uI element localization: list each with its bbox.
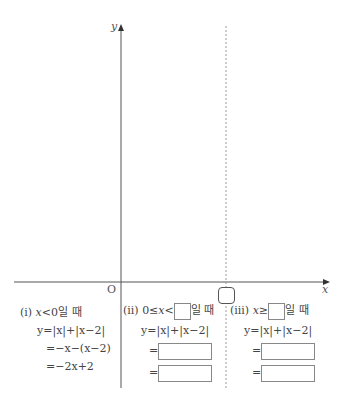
case-ii-answer-blank-2[interactable] bbox=[158, 365, 212, 382]
y-axis-label: y bbox=[111, 20, 117, 33]
case-ii-op: < bbox=[165, 304, 174, 317]
case-iii-line-2: = bbox=[230, 340, 315, 362]
origin-label: O bbox=[107, 283, 116, 296]
case-iii-eq-1: = bbox=[252, 344, 261, 357]
case-i: (i) x<0일 때 y=|x|+|x−2| =−x−(x−2) =−2x+2 bbox=[20, 304, 111, 376]
case-i-line-2: =−x−(x−2) bbox=[20, 340, 111, 358]
case-ii-condition-blank[interactable] bbox=[174, 303, 191, 320]
case-i-line-3: =−2x+2 bbox=[20, 358, 111, 376]
case-iii-answer-blank-1[interactable] bbox=[261, 343, 315, 360]
case-iii-suffix: 일 때 bbox=[285, 304, 309, 317]
case-iii-header: (iii) x≥일 때 bbox=[230, 300, 315, 322]
case-iii-number: (iii) bbox=[230, 304, 253, 317]
case-ii-left: 0≤ bbox=[142, 304, 158, 317]
case-ii-line-1: y=|x|+|x−2| bbox=[123, 322, 214, 340]
x-axis-label: x bbox=[322, 283, 328, 296]
case-i-header: (i) x<0일 때 bbox=[20, 304, 111, 322]
case-iii-condition-blank[interactable] bbox=[268, 303, 285, 320]
case-ii-eq-1: = bbox=[149, 344, 158, 357]
case-ii-header: (ii) 0≤x<일 때 bbox=[123, 300, 214, 322]
case-ii-suffix: 일 때 bbox=[191, 304, 215, 317]
case-iii-eq-2: = bbox=[252, 366, 261, 379]
case-i-suffix: 일 때 bbox=[58, 306, 82, 319]
case-ii-line-3: = bbox=[123, 362, 214, 384]
case-i-line-1: y=|x|+|x−2| bbox=[20, 322, 111, 340]
case-ii-answer-blank-1[interactable] bbox=[158, 343, 212, 360]
case-iii-line-3: = bbox=[230, 362, 315, 384]
case-ii-number: (ii) bbox=[123, 304, 142, 317]
case-iii-op: ≥ bbox=[259, 304, 268, 317]
case-iii-answer-blank-2[interactable] bbox=[261, 365, 315, 382]
case-iii-line-1: y=|x|+|x−2| bbox=[230, 322, 315, 340]
case-iii: (iii) x≥일 때 y=|x|+|x−2| = = bbox=[230, 300, 315, 384]
case-ii-line-2: = bbox=[123, 340, 214, 362]
case-i-number: (i) bbox=[20, 306, 36, 319]
case-i-value: 0 bbox=[51, 306, 58, 319]
case-ii-eq-2: = bbox=[149, 366, 158, 379]
y-axis-arrow-icon bbox=[118, 24, 124, 31]
case-i-op: < bbox=[42, 306, 51, 319]
case-ii: (ii) 0≤x<일 때 y=|x|+|x−2| = = bbox=[123, 300, 214, 384]
